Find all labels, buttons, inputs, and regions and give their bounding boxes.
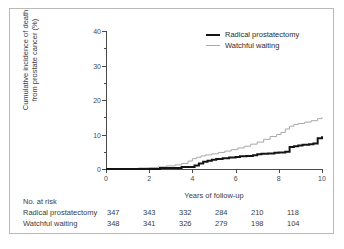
- series-line-radical-prostatectomy: [106, 117, 322, 169]
- risk-table-title: No. at risk: [23, 197, 323, 206]
- risk-row-label: Watchful waiting: [23, 219, 107, 228]
- y-axis-label-line1: Cumulative incidence of death: [21, 0, 30, 120]
- y-axis-label-line2: from prostate cancer (%): [30, 0, 39, 120]
- x-tick-6: [236, 169, 237, 173]
- risk-value: 347: [107, 208, 143, 217]
- legend-item-radical-prostatectomy: Radical prostatectomy: [206, 29, 299, 40]
- risk-value: 332: [179, 208, 215, 217]
- x-tick-label-2: 2: [147, 175, 151, 182]
- legend-item-watchful-waiting: Watchful waiting: [206, 40, 299, 51]
- risk-value: 341: [143, 219, 179, 228]
- risk-value: 210: [251, 208, 287, 217]
- y-tick-label-10: 10: [93, 131, 101, 138]
- risk-value: 348: [107, 219, 143, 228]
- legend-swatch-black-icon: [206, 34, 220, 36]
- y-tick-label-20: 20: [93, 97, 101, 104]
- y-tick-label-40: 40: [93, 28, 101, 35]
- risk-table-row: Radical prostatectomy347343332284210118: [23, 208, 323, 219]
- x-tick-label-0: 0: [104, 175, 108, 182]
- risk-value: 284: [215, 208, 251, 217]
- x-tick-label-8: 8: [277, 175, 281, 182]
- x-tick-4: [192, 169, 193, 173]
- risk-value: 279: [215, 219, 251, 228]
- risk-table: No. at risk Radical prostatectomy3473433…: [23, 197, 323, 230]
- x-tick-label-10: 10: [318, 175, 326, 182]
- figure-panel: Cumulative incidence of death from prost…: [9, 8, 334, 234]
- risk-row-label: Radical prostatectomy: [23, 208, 107, 217]
- risk-table-row: Watchful waiting348341326279198104: [23, 219, 323, 230]
- risk-table-rows: Radical prostatectomy347343332284210118W…: [23, 208, 323, 230]
- y-axis-label: Cumulative incidence of death from prost…: [21, 0, 39, 120]
- x-tick-label-4: 4: [190, 175, 194, 182]
- legend-label-watchful-waiting: Watchful waiting: [225, 40, 279, 51]
- risk-value: 118: [287, 208, 323, 217]
- series-curves: [106, 31, 322, 169]
- x-tick-label-6: 6: [234, 175, 238, 182]
- risk-value: 198: [251, 219, 287, 228]
- x-tick-8: [279, 169, 280, 173]
- risk-value: 326: [179, 219, 215, 228]
- legend-swatch-gray-icon: [206, 45, 220, 46]
- risk-row-values: 347343332284210118: [107, 208, 323, 217]
- legend-label-radical-prostatectomy: Radical prostatectomy: [225, 29, 299, 40]
- risk-row-values: 348341326279198104: [107, 219, 323, 228]
- series-line-watchful-waiting: [106, 136, 322, 169]
- y-tick-label-0: 0: [97, 166, 101, 173]
- risk-value: 104: [287, 219, 323, 228]
- x-tick-10: [322, 169, 323, 173]
- y-tick-label-30: 30: [93, 62, 101, 69]
- risk-value: 343: [143, 208, 179, 217]
- chart-legend: Radical prostatectomy Watchful waiting: [206, 29, 299, 51]
- axis-area: 010203040 0246810: [106, 31, 322, 169]
